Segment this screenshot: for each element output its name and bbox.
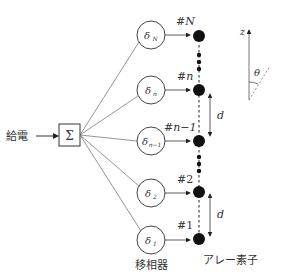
- svg-text:δ: δ: [144, 30, 150, 41]
- svg-text:N: N: [151, 35, 158, 42]
- theta-label: θ: [254, 67, 260, 78]
- ellipsis-dots-lower: [197, 155, 201, 173]
- svg-text:1: 1: [153, 240, 157, 247]
- feed-label: 給電: [6, 129, 28, 143]
- z-axis-label: z: [239, 27, 245, 37]
- svg-text:n−1: n−1: [149, 141, 162, 148]
- phase-shifter-n: δ n: [137, 76, 165, 104]
- phase-shifter-1: δ 1: [137, 226, 165, 254]
- shifter-to-element-arrows: [165, 35, 190, 240]
- spacing-label-lower: d: [217, 208, 224, 221]
- svg-text:δ: δ: [142, 136, 148, 147]
- tag-n-minus-1: #n−1: [164, 121, 197, 134]
- tag-2: #2: [177, 173, 193, 186]
- spacing-label-upper: d: [217, 109, 224, 122]
- array-element-label: アレー素子: [203, 254, 258, 267]
- svg-text:δ: δ: [145, 85, 151, 96]
- svg-text:δ: δ: [145, 235, 151, 246]
- feed-lines: [80, 42, 141, 231]
- phase-shifter-n-minus-1: δ n−1: [137, 127, 165, 155]
- sum-symbol: Σ: [65, 129, 73, 143]
- phase-shifter-label: 移相器: [135, 259, 168, 272]
- phase-shifter-2: δ 2: [137, 179, 165, 207]
- svg-text:n: n: [153, 90, 157, 97]
- tag-n: #n: [177, 70, 193, 83]
- phase-shifter-N: δ N: [137, 21, 165, 49]
- ellipsis-dots-upper: [197, 53, 201, 71]
- tag-N: #N: [176, 15, 195, 28]
- svg-text:2: 2: [152, 193, 157, 200]
- svg-text:δ: δ: [145, 188, 151, 199]
- theta-arc: [249, 82, 258, 84]
- tag-1: #1: [177, 219, 193, 232]
- phased-array-diagram: 給電 Σ δ N δ n δ n−1 δ 2 δ 1: [0, 0, 287, 277]
